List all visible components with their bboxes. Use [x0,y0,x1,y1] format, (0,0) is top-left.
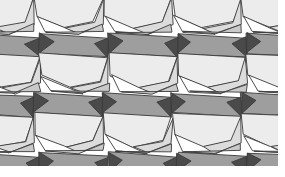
tessellation-unit-cell [171,92,242,153]
tessellation-figure [0,0,285,177]
tessellation-unit-cell [33,0,104,34]
tessellation-unit-cell [0,93,35,153]
tessellation-unit-cell [33,92,104,154]
tessellation-unit-cell [177,34,247,94]
tessellation-unit-cell [171,0,243,34]
tessellation-unit-cell [0,33,41,94]
tessellation-unit-cell [108,33,179,94]
tessellation-unit-cell [0,0,35,34]
tessellation-unit-cell [38,33,109,94]
tessellation-canvas [0,0,285,177]
tessellation-unit-cell [102,93,173,154]
